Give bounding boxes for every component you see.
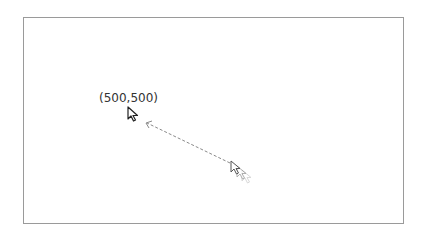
motion-path xyxy=(147,123,230,163)
motion-overlay xyxy=(0,0,424,238)
target-cursor-icon xyxy=(128,107,138,121)
